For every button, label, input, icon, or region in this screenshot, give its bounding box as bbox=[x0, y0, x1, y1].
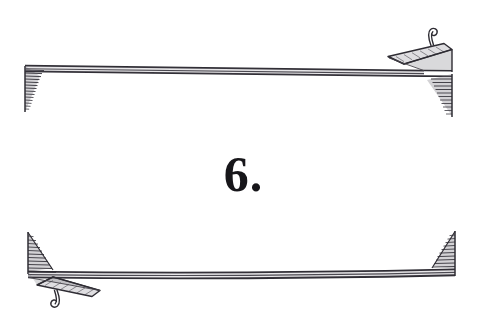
ornament-page: 6. bbox=[0, 0, 487, 333]
page-numeral: 6. bbox=[0, 148, 487, 200]
